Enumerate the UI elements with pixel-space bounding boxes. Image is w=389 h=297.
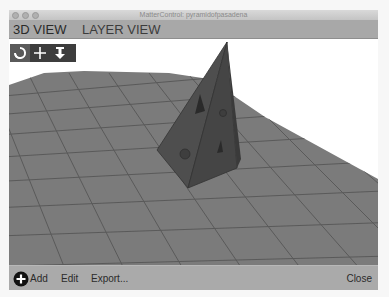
view-tabs: 3D VIEW LAYER VIEW bbox=[9, 20, 378, 39]
view-tool-panel bbox=[10, 44, 76, 62]
zoom-tool-button[interactable] bbox=[50, 44, 70, 62]
rotate-tool-button[interactable] bbox=[10, 44, 30, 62]
bottom-action-bar: Add Edit Export... Close bbox=[9, 265, 378, 290]
export-button[interactable]: Export... bbox=[91, 266, 128, 290]
app-window: MatterControl: pyramidofpasadena 3D VIEW… bbox=[9, 10, 378, 290]
add-label: Add bbox=[30, 266, 48, 290]
plus-circle-icon bbox=[13, 271, 29, 287]
tab-3d-view[interactable]: 3D VIEW bbox=[13, 20, 66, 38]
scene-render bbox=[9, 39, 378, 265]
window-title: MatterControl: pyramidofpasadena bbox=[9, 10, 378, 20]
edit-button[interactable]: Edit bbox=[61, 266, 78, 290]
add-button[interactable]: Add bbox=[13, 266, 48, 290]
3d-viewport[interactable] bbox=[9, 39, 378, 265]
move-icon bbox=[33, 46, 47, 60]
close-button[interactable]: Close bbox=[346, 266, 372, 290]
move-tool-button[interactable] bbox=[30, 44, 50, 62]
zoom-down-arrow-icon bbox=[53, 46, 67, 60]
tab-layer-view[interactable]: LAYER VIEW bbox=[82, 20, 161, 38]
title-bar: MatterControl: pyramidofpasadena bbox=[9, 10, 378, 20]
rotate-icon bbox=[13, 46, 27, 60]
